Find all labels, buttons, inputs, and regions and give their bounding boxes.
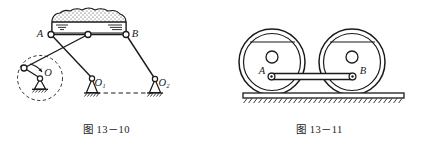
support-o [32, 76, 48, 93]
figure-caption-right: 图 13－11 [213, 121, 426, 136]
label-pivot-o: O [44, 67, 52, 78]
crank-pin [21, 65, 27, 71]
figure-13-11-group: A B [239, 29, 404, 103]
wheel-right [319, 29, 385, 95]
coupling-rod [268, 73, 356, 80]
label-pin-b: B [360, 65, 367, 76]
joint-b-pin [123, 32, 129, 38]
figure-13-10-group: A B O O₁ O₂ [18, 8, 170, 101]
label-pivot-o1: O₁ [94, 77, 105, 88]
joint-a-pin [48, 32, 54, 38]
rail-ground [243, 93, 404, 103]
wheel-right-hub [346, 51, 358, 63]
label-joint-b: B [132, 28, 139, 39]
figure-sheet: A B O O₁ O₂ [0, 0, 426, 150]
label-pin-a: A [258, 65, 266, 76]
label-joint-a: A [36, 28, 44, 39]
wheel-left [239, 29, 305, 95]
wheel-left-hub [266, 51, 278, 63]
label-pivot-o2: O₂ [158, 77, 170, 88]
joint-middle-pin [85, 32, 91, 38]
figure-caption-left: 图 13－10 [0, 121, 213, 136]
